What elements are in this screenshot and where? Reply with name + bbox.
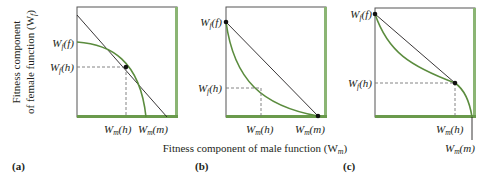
panel-c-label-wf-f: Wf(f) — [350, 8, 372, 22]
panel-c: Wf(f) Wf(h) Wm(h) Wm(m) (c) — [343, 8, 476, 173]
panel-b-frame — [226, 7, 326, 117]
panel-b-label-wm-h: Wm(h) — [246, 123, 274, 137]
panel-b-right-accent — [324, 7, 327, 118]
y-axis-label-line1: Fitness component — [10, 21, 22, 104]
panel-a-right-accent — [175, 7, 178, 118]
panel-a-label-wm-h: Wm(h) — [104, 123, 132, 137]
panel-c-hermaphrodite-point — [453, 81, 458, 86]
panel-c-chord-line — [375, 14, 455, 83]
panel-c-bottom-accent — [375, 115, 476, 118]
panel-a: Wf(f) Wf(h) Wm(h) Wm(m) (a) — [12, 7, 178, 173]
y-axis-label: Fitness component of female function (Wf… — [10, 10, 38, 114]
panel-c-right-accent — [473, 8, 476, 118]
panel-a-bottom-accent — [77, 115, 178, 118]
panel-b-letter: (b) — [195, 160, 209, 173]
panel-b-label-wf-f: Wf(f) — [200, 16, 222, 30]
panel-b-endpoint-male — [316, 114, 321, 119]
panel-c-label-wm-h: Wm(h) — [436, 123, 464, 137]
panel-a-optimum-point — [124, 65, 129, 70]
panel-b-label-wm-m: Wm(m) — [295, 123, 325, 137]
panel-b-endpoint-female — [224, 20, 229, 25]
panel-a-label-wm-m: Wm(m) — [138, 123, 168, 137]
panel-c-endpoint-female — [373, 12, 378, 17]
panel-c-label-wf-h: Wf(h) — [348, 77, 372, 91]
panel-a-frame — [77, 7, 177, 117]
panel-a-label-wf-f: Wf(f) — [52, 37, 74, 51]
panel-c-tradeoff-curve — [375, 14, 472, 117]
panel-c-frame — [375, 8, 475, 117]
y-axis-label-line2: of female function (Wf) — [24, 10, 38, 114]
panel-c-letter: (c) — [343, 160, 356, 173]
panel-a-letter: (a) — [12, 160, 25, 173]
figure-canvas: Fitness component of female function (Wf… — [0, 0, 491, 187]
panel-a-label-wf-h: Wf(h) — [50, 61, 74, 75]
panel-c-label-wm-m: Wm(m) — [445, 142, 475, 156]
panel-a-tradeoff-curve — [77, 42, 146, 117]
x-axis-label: Fitness component of male function (Wm) — [163, 142, 348, 156]
panel-b-label-wf-h: Wf(h) — [198, 82, 222, 96]
panel-a-tangent-line — [77, 15, 167, 117]
